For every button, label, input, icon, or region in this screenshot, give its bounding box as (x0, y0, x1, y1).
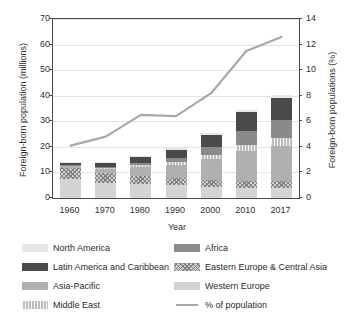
x-tick-label-1960: 1960 (50, 205, 90, 215)
bar-segment-af (130, 163, 151, 165)
y-tick-mark-left (49, 69, 52, 70)
bar-segment-na (130, 156, 151, 157)
legend-label: North America (53, 243, 110, 253)
bar-segment-eeca (95, 173, 116, 183)
bar-segment-we (271, 188, 292, 198)
y-tick-mark-left (49, 146, 52, 147)
legend-item-me[interactable]: Middle East (22, 300, 174, 310)
y-tick-mark-left (49, 197, 52, 198)
y-tick-mark-right (299, 146, 302, 147)
y-tick-label-left: 20 (28, 142, 50, 151)
bar-segment-eeca (271, 181, 292, 188)
bar-1990[interactable] (166, 19, 187, 198)
y-tick-mark-right (299, 171, 302, 172)
y-tick-label-left: 50 (28, 65, 50, 74)
bar-segment-ap (236, 151, 257, 180)
bar-segment-na (236, 110, 257, 112)
bar-segment-lac (130, 157, 151, 163)
bar-segment-me (271, 138, 292, 146)
y-axis-label-left: Foreign-born population (millions) (18, 30, 28, 190)
legend-label: Eastern Europe & Central Asia (205, 262, 327, 272)
legend-swatch-na-icon (22, 244, 48, 252)
bar-segment-af (201, 147, 222, 154)
y-tick-label-right: 0 (306, 193, 328, 202)
legend-swatch-eeca-icon (174, 263, 200, 271)
y-tick-mark-left (49, 171, 52, 172)
bar-segment-we (60, 179, 81, 198)
y-tick-mark-left (49, 44, 52, 45)
bar-segment-af (271, 120, 292, 138)
y-tick-label-right: 8 (306, 91, 328, 100)
x-tick-label-1980: 1980 (120, 205, 160, 215)
x-tick-label-2000: 2000 (190, 205, 230, 215)
bar-segment-me (60, 165, 81, 166)
bar-segment-me (130, 165, 151, 167)
legend-label: Western Europe (205, 281, 270, 291)
bar-1970[interactable] (95, 19, 116, 198)
legend-label: Middle East (53, 300, 100, 310)
bar-segment-we (130, 184, 151, 198)
bar-segment-af (166, 158, 187, 162)
bar-1980[interactable] (130, 19, 151, 198)
y-tick-label-right: 4 (306, 142, 328, 151)
bar-segment-eeca (130, 176, 151, 184)
legend-label: Latin America and Caribbean (53, 262, 169, 272)
legend: North AmericaAfricaLatin America and Car… (22, 238, 342, 314)
x-axis-label: Year (0, 222, 354, 232)
y-tick-label-left: 30 (28, 116, 50, 125)
bar-segment-af (236, 131, 257, 145)
bar-segment-lac (95, 163, 116, 167)
bar-segment-lac (60, 163, 81, 165)
legend-swatch-lac-icon (22, 263, 48, 271)
legend-label: Africa (205, 243, 228, 253)
legend-swatch-ap-icon (22, 282, 48, 290)
bar-segment-na (95, 162, 116, 163)
bar-segment-lac (201, 135, 222, 148)
y-tick-label-left: 10 (28, 167, 50, 176)
bar-1960[interactable] (60, 19, 81, 198)
x-tick-label-1990: 1990 (155, 205, 195, 215)
y-tick-mark-left (49, 18, 52, 19)
bar-2017[interactable] (271, 19, 292, 198)
bar-segment-me (236, 145, 257, 151)
bar-2010[interactable] (236, 19, 257, 198)
y-tick-mark-left (49, 95, 52, 96)
bar-segment-af (95, 167, 116, 168)
bar-segment-lac (236, 112, 257, 131)
y-tick-label-right: 6 (306, 116, 328, 125)
y-tick-label-left: 70 (28, 14, 50, 23)
bar-segment-we (201, 187, 222, 198)
bar-segment-ap (95, 169, 116, 173)
bar-segment-me (95, 168, 116, 169)
legend-item-eeca[interactable]: Eastern Europe & Central Asia (174, 262, 342, 272)
bar-segment-na (201, 133, 222, 135)
bar-segment-eeca (236, 181, 257, 188)
y-tick-mark-right (299, 69, 302, 70)
x-tick-label-1970: 1970 (85, 205, 125, 215)
bar-segment-af (60, 165, 81, 166)
bar-segment-ap (201, 159, 222, 180)
legend-item-na[interactable]: North America (22, 243, 174, 253)
y-tick-label-right: 14 (306, 14, 328, 23)
legend-item-ap[interactable]: Asia-Pacific (22, 281, 174, 291)
bar-segment-me (166, 162, 187, 165)
legend-item-lac[interactable]: Latin America and Caribbean (22, 262, 174, 272)
bar-2000[interactable] (201, 19, 222, 198)
legend-item-af[interactable]: Africa (174, 243, 342, 253)
y-tick-mark-right (299, 197, 302, 198)
y-axis-label-right: Foreign-born populations (%) (327, 30, 337, 190)
bar-segment-me (201, 155, 222, 159)
legend-item-line[interactable]: % of population (174, 300, 342, 310)
legend-swatch-line-icon (174, 301, 200, 309)
y-tick-mark-right (299, 120, 302, 121)
x-tick-label-2010: 2010 (225, 205, 265, 215)
y-tick-label-right: 12 (306, 40, 328, 49)
legend-item-we[interactable]: Western Europe (174, 281, 342, 291)
y-tick-mark-right (299, 18, 302, 19)
bar-segment-ap (271, 146, 292, 181)
bar-segment-eeca (60, 168, 81, 180)
legend-swatch-me-icon (22, 301, 48, 309)
foreign-born-population-chart: Foreign-born population (millions) Forei… (0, 0, 354, 318)
plot-area (52, 18, 300, 199)
x-tick-label-2017: 2017 (260, 205, 300, 215)
